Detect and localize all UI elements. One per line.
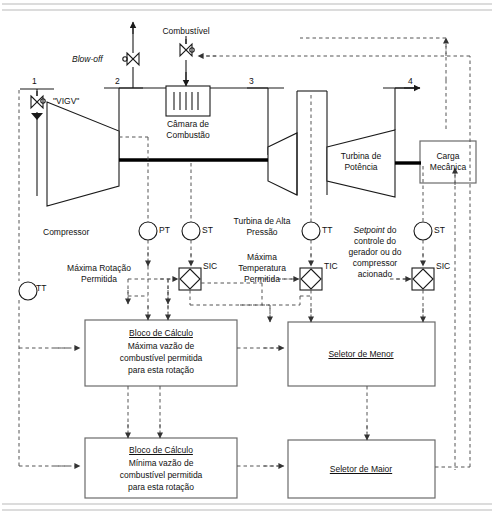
tic-symbol [300, 268, 322, 290]
tt-hp-label: TT [322, 225, 332, 236]
max-temp-setpoint-line3: Permitida [244, 274, 280, 285]
power-turbine-label-line1: Turbina de [341, 151, 381, 162]
calc-min-line2: combustível permitida [120, 470, 203, 481]
process-lines [20, 22, 476, 206]
station-2-label: 2 [115, 76, 120, 87]
fuel-valve-symbol [180, 39, 194, 56]
station-1-label: 1 [32, 76, 37, 87]
generator-setpoint-line2: controle do [354, 236, 396, 247]
controller-symbols [179, 268, 434, 290]
generator-setpoint-line4: compressor [353, 258, 397, 269]
fuel-label: Combustível [162, 26, 209, 37]
pt-label: PT [159, 225, 170, 236]
calc-min-title: Bloco de Cálculo [129, 445, 193, 456]
max-speed-setpoint-line2: Permitida [81, 274, 117, 285]
combustor-label-line2: Combustão [166, 130, 209, 141]
generator-setpoint-line5: acionado [358, 269, 393, 280]
st-compressor-bubble [182, 222, 200, 240]
signal-lines [19, 38, 470, 470]
tt-left-bubble [19, 282, 37, 300]
calc-max-line2: combustível permitida [120, 353, 203, 364]
station-4-label: 4 [408, 76, 413, 87]
tt-left-label: TT [36, 283, 46, 294]
hp-turbine-label-line1: Turbina de Alta [234, 216, 291, 227]
sic-right-label: SIC [436, 261, 450, 272]
mech-load-label-line1: Carga [436, 151, 459, 162]
generator-setpoint-line3: gerador ou do [349, 247, 402, 258]
max-temp-setpoint-line2: Temperatura [238, 263, 286, 274]
diagram-canvas: 1 2 3 4 Blow-off Combustível "VIGV" Câma… [0, 0, 494, 514]
vigv-valve-symbol [31, 91, 45, 120]
calc-min-line1: Mínima vazão de [129, 458, 194, 469]
st-power-label: ST [434, 225, 445, 236]
max-speed-setpoint-line1: Máxima Rotação [67, 263, 131, 274]
calc-max-line3: para esta rotação [128, 365, 194, 376]
tt-hp-bubble [302, 222, 320, 240]
pt-bubble [139, 222, 157, 240]
blowoff-valve-symbol [123, 53, 139, 65]
sic-left-label: SIC [203, 261, 217, 272]
high-selector-label: Seletor de Maior [330, 464, 392, 475]
low-selector-label: Seletor de Menor [328, 349, 393, 360]
vigv-label: "VIGV" [53, 96, 79, 107]
combustor-label-line1: Câmara de [167, 119, 209, 130]
power-turbine-label-line2: Potência [344, 162, 377, 173]
max-temp-setpoint-line1: Máxima [247, 252, 277, 263]
compressor-label: Compressor [43, 227, 89, 238]
sic-right-symbol [412, 268, 434, 290]
calc-max-title: Bloco de Cálculo [129, 328, 193, 339]
calc-min-line3: para esta rotação [128, 482, 194, 493]
calc-max-line1: Máxima vazão de [128, 341, 195, 352]
generator-setpoint-line1: Setpoint do [353, 225, 396, 236]
hp-turbine-label-line2: Pressão [246, 227, 277, 238]
setpoint-suffix: do [385, 225, 397, 235]
station-3-label: 3 [249, 76, 254, 87]
mech-load-label-line2: Mecânica [430, 162, 466, 173]
tic-label: TIC [324, 261, 338, 272]
st-power-bubble [414, 222, 432, 240]
blow-off-label: Blow-off [72, 54, 103, 65]
setpoint-keyword: Setpoint [353, 225, 384, 235]
sic-left-symbol [179, 268, 201, 290]
st-compressor-label: ST [202, 225, 213, 236]
